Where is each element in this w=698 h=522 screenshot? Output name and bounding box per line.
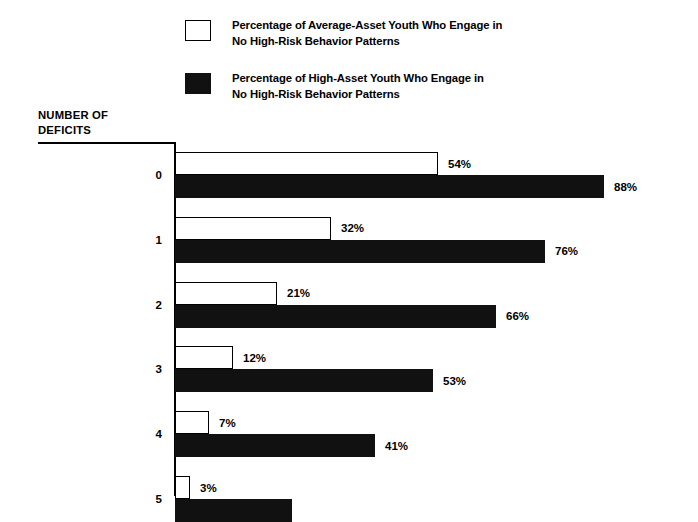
category-label: 5	[120, 493, 162, 505]
bar-value-label: 54%	[448, 158, 471, 170]
bar-high-asset[interactable]	[175, 369, 433, 392]
bar-value-label: 66%	[506, 310, 529, 322]
category-label: 1	[120, 234, 162, 246]
bar-average-asset[interactable]	[175, 152, 438, 175]
bar-high-asset[interactable]	[175, 240, 545, 263]
bar-average-asset[interactable]	[175, 476, 190, 499]
bar-average-asset[interactable]	[175, 217, 331, 240]
bar-high-asset[interactable]	[175, 305, 496, 328]
category-label: 3	[120, 363, 162, 375]
bar-value-label: 53%	[443, 375, 466, 387]
bar-value-label: 32%	[341, 222, 364, 234]
bar-value-label: 3%	[200, 482, 217, 494]
bar-value-label: 76%	[555, 245, 578, 257]
category-label: 0	[120, 169, 162, 181]
bar-value-label: 88%	[614, 181, 637, 193]
bar-high-asset[interactable]	[175, 175, 604, 198]
bar-average-asset[interactable]	[175, 411, 209, 434]
bar-value-label: 21%	[287, 287, 310, 299]
bar-value-label: 41%	[385, 440, 408, 452]
bar-average-asset[interactable]	[175, 282, 277, 305]
bar-value-label: 7%	[219, 417, 236, 429]
bar-high-asset[interactable]	[175, 434, 375, 457]
category-label: 4	[120, 428, 162, 440]
category-label: 2	[120, 299, 162, 311]
bar-high-asset[interactable]	[175, 499, 292, 522]
bar-value-label: 12%	[243, 352, 266, 364]
bar-average-asset[interactable]	[175, 346, 233, 369]
